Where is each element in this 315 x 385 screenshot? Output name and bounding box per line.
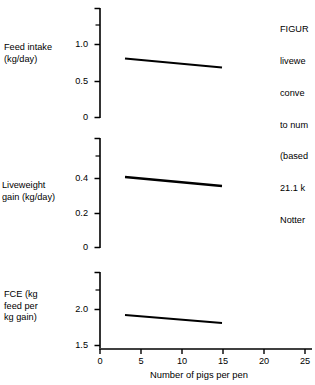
feed-intake-line [125, 59, 222, 68]
figure-container: Feed intake (kg/day) Liveweight gain (kg… [0, 0, 315, 385]
caption-line-1: FIGUR [280, 24, 315, 35]
xtick-label-10: 10 [171, 357, 193, 366]
panel-feed-intake [95, 8, 223, 118]
panel-label-fce: FCE (kg feed per kg gain) [4, 289, 60, 324]
xtick-label-5: 5 [130, 357, 152, 366]
xtick-label-0: 0 [89, 357, 111, 366]
xtick-label-15: 15 [212, 357, 234, 366]
panel-label-liveweight-gain: Liveweight gain (kg/day) [2, 180, 82, 203]
feed-ytick-label-1.0: 1.0 [58, 40, 88, 49]
fce-line [125, 315, 222, 323]
fce-ytick-label-1.5: 1.5 [58, 341, 88, 350]
caption-line-7: Notter [280, 215, 315, 226]
gain-ytick-label-0: 0 [58, 243, 88, 252]
x-axis-title: Number of pigs per pen [150, 370, 310, 380]
panel-liveweight-gain [95, 138, 223, 248]
caption-line-6: 21.1 k [280, 183, 315, 194]
gain-ytick-label-0.2: 0.2 [58, 209, 88, 218]
fce-ytick-label-2.0: 2.0 [58, 305, 88, 314]
caption-line-2: livewe [280, 56, 315, 67]
xtick-label-25: 25 [294, 357, 315, 366]
xtick-label-20: 20 [253, 357, 275, 366]
shared-x-axis [99, 349, 312, 354]
feed-ytick-label-0: 0 [58, 113, 88, 122]
caption-line-5: (based [280, 151, 315, 162]
caption-line-3: conve [280, 88, 315, 99]
figure-caption: FIGUR livewe conve to num (based 21.1 k … [280, 3, 315, 247]
caption-line-4: to num [280, 120, 315, 131]
liveweight-gain-line [125, 177, 222, 186]
gain-ytick-label-0.4: 0.4 [58, 174, 88, 183]
feed-ytick-label-0.5: 0.5 [58, 77, 88, 86]
panel-fce [95, 272, 223, 348]
